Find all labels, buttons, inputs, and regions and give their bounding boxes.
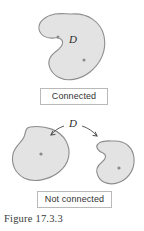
- connected-region-label: D: [68, 33, 77, 45]
- not-connected-left-region-group: [12, 127, 69, 181]
- connected-point-2: [83, 59, 86, 62]
- connected-point-1: [57, 36, 60, 39]
- not-connected-label-box: Not connected: [37, 191, 112, 208]
- connected-label-box: Connected: [40, 88, 108, 105]
- not-connected-right-region-group: [97, 141, 134, 184]
- not-connected-region-label: D: [68, 117, 77, 129]
- not-connected-right-shape: [97, 141, 134, 184]
- not-connected-left-point: [39, 152, 42, 155]
- figure-container: D D Connected Not connected Figure 17.3.…: [0, 0, 144, 231]
- figure-caption: Figure 17.3.3: [4, 213, 63, 224]
- arrow-to-right-region: [82, 126, 97, 136]
- connected-region-shape: [39, 14, 105, 80]
- connected-region-group: D: [39, 14, 105, 80]
- not-connected-right-point: [117, 166, 120, 169]
